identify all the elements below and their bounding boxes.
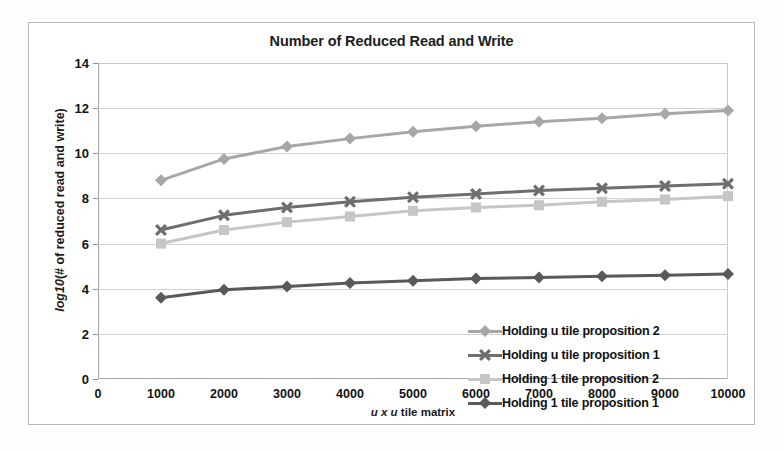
legend-swatch-square-icon	[468, 372, 502, 386]
y-axis-tick-label: 4	[82, 281, 89, 296]
y-axis-title-rest: (# of reduced read and write)	[53, 108, 67, 279]
series-3	[155, 268, 734, 304]
chart-frame: Number of Reduced Read and Write log10(#…	[28, 22, 755, 425]
data-point-marker-diamond	[407, 126, 419, 138]
data-point-marker-square	[480, 374, 490, 384]
y-axis-tick-label: 14	[75, 56, 89, 71]
legend-item[interactable]: Holding u tile proposition 2	[468, 319, 726, 343]
series-2	[156, 191, 733, 248]
data-point-marker-square	[660, 195, 670, 205]
y-axis-tick-label: 0	[82, 372, 89, 387]
data-point-marker-diamond	[659, 108, 671, 120]
data-point-marker-diamond	[344, 277, 356, 289]
data-point-marker-square	[408, 206, 418, 216]
data-point-marker-square	[219, 225, 229, 235]
y-axis-tick-label: 2	[82, 326, 89, 341]
data-point-marker-diamond	[155, 292, 167, 304]
series-line	[161, 274, 728, 298]
y-axis-tick-label: 6	[82, 236, 89, 251]
data-point-marker-square	[282, 217, 292, 227]
legend-marker-square-icon	[477, 371, 493, 387]
series-line	[161, 196, 728, 243]
data-point-marker-diamond	[407, 275, 419, 287]
data-point-marker-diamond	[596, 270, 608, 282]
y-axis-tick-label: 8	[82, 191, 89, 206]
series-line	[161, 184, 728, 230]
series-0	[155, 104, 734, 186]
legend-swatch-cross-icon	[468, 348, 502, 362]
legend-item[interactable]: Holding u tile proposition 1	[468, 343, 726, 367]
data-point-marker-square	[597, 197, 607, 207]
data-point-marker-diamond	[722, 268, 734, 280]
x-axis-tick-label: 0	[95, 387, 102, 401]
x-axis-tick-label: 2000	[210, 387, 238, 401]
chart-legend: Holding u tile proposition 2Holding u ti…	[468, 319, 726, 415]
legend-label: Holding u tile proposition 1	[502, 348, 660, 362]
legend-marker-diamond-icon	[477, 395, 493, 411]
x-axis-tick-label: 5000	[399, 387, 427, 401]
data-point-marker-diamond	[596, 112, 608, 124]
data-point-marker-diamond	[218, 284, 230, 296]
data-point-marker-diamond	[659, 269, 671, 281]
data-point-marker-diamond	[218, 153, 230, 165]
data-point-marker-square	[534, 200, 544, 210]
data-point-marker-diamond	[470, 120, 482, 132]
y-axis-title: log10(# of reduced read and write)	[53, 85, 67, 335]
x-axis-tick-label: 1000	[147, 387, 175, 401]
chart-title: Number of Reduced Read and Write	[29, 33, 754, 49]
y-axis-tick-mark	[93, 379, 98, 380]
legend-item[interactable]: Holding 1 tile proposition 2	[468, 367, 726, 391]
legend-swatch-diamond-icon	[468, 324, 502, 338]
legend-swatch-diamond-icon	[468, 396, 502, 410]
legend-item[interactable]: Holding 1 tile proposition 1	[468, 391, 726, 415]
data-point-marker-diamond	[155, 174, 167, 186]
data-point-marker-diamond	[470, 273, 482, 285]
data-point-marker-diamond	[533, 271, 545, 283]
x-axis-title-italic: u x u	[371, 406, 398, 418]
legend-label: Holding u tile proposition 2	[502, 324, 660, 338]
series-line	[161, 110, 728, 180]
legend-label: Holding 1 tile proposition 2	[502, 372, 659, 386]
legend-marker-cross-icon	[477, 347, 493, 363]
data-point-marker-cross	[479, 349, 491, 361]
data-point-marker-square	[471, 202, 481, 212]
data-point-marker-diamond	[722, 104, 734, 116]
y-axis-tick-label: 12	[75, 101, 89, 116]
x-axis-tick-label: 4000	[336, 387, 364, 401]
data-point-marker-diamond	[479, 325, 491, 337]
data-point-marker-diamond	[533, 116, 545, 128]
data-point-marker-diamond	[479, 397, 491, 409]
data-point-marker-square	[156, 239, 166, 249]
chart-figure: Number of Reduced Read and Write log10(#…	[0, 0, 783, 451]
x-axis-tick-label: 3000	[273, 387, 301, 401]
y-axis-title-italic: log10	[53, 279, 67, 312]
legend-marker-diamond-icon	[477, 323, 493, 339]
x-axis-title-rest: tile matrix	[398, 406, 456, 418]
data-point-marker-diamond	[281, 280, 293, 292]
data-point-marker-square	[723, 191, 733, 201]
data-point-marker-square	[345, 211, 355, 221]
legend-label: Holding 1 tile proposition 1	[502, 396, 659, 410]
data-point-marker-diamond	[344, 133, 356, 145]
y-axis-tick-label: 10	[75, 146, 89, 161]
data-point-marker-diamond	[281, 141, 293, 153]
